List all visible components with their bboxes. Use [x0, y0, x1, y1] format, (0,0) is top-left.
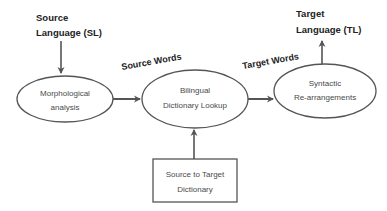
node-lookup-line1: Bilingual [180, 86, 210, 95]
node-morph-line2: analysis [51, 103, 80, 112]
target-language-line1: Target [296, 8, 325, 19]
node-morph-line1: Morphological [40, 89, 90, 98]
node-source-to-target-dictionary: Source to Target Dictionary [153, 159, 237, 202]
target-language-label: Target Language (TL) [296, 8, 361, 35]
node-lookup-line2: Dictionary Lookup [163, 101, 228, 110]
source-language-line2: Language (SL) [36, 27, 102, 38]
node-bilingual-dictionary-lookup: Bilingual Dictionary Lookup [142, 70, 248, 128]
node-morphological-analysis: Morphological analysis [17, 76, 113, 122]
node-dict-line1: Source to Target [166, 170, 225, 179]
source-language-line1: Source [36, 12, 68, 23]
mt-pipeline-diagram: Source Language (SL) Morphological analy… [0, 0, 387, 211]
node-syntactic-rearrangements: Syntactic Re-arrangements [274, 64, 376, 118]
source-language-label: Source Language (SL) [36, 12, 102, 38]
edge-label-target-words: Target Words [242, 51, 300, 71]
edge-label-source-words: Source Words [121, 52, 183, 72]
node-syntax-line2: Re-arrangements [294, 93, 356, 102]
node-dict-line2: Dictionary [177, 185, 213, 194]
target-language-line2: Language (TL) [296, 24, 361, 35]
node-syntax-line1: Syntactic [309, 79, 341, 88]
